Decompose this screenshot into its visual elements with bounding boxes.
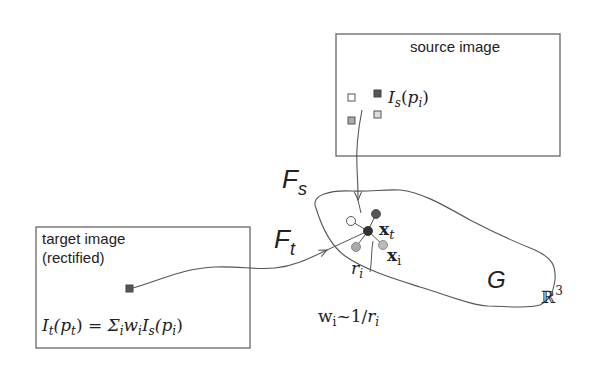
source-image-box: source image Is(pi) <box>336 34 560 156</box>
neighbor-node-light <box>347 217 356 226</box>
distance-indicator <box>370 241 373 272</box>
source-mapping-label: Fs <box>282 164 307 199</box>
xt-label: xt <box>379 219 395 242</box>
target-mapping-tail <box>327 231 368 250</box>
diagram-svg: source image Is(pi) target image (rectif… <box>0 0 595 368</box>
neighbor-node-dark <box>372 210 381 219</box>
diagram-canvas: source image Is(pi) target image (rectif… <box>0 0 595 368</box>
r3-label: ℝ3 <box>541 284 563 307</box>
ri-label: ri <box>351 258 363 281</box>
target-pixel-square <box>126 285 133 292</box>
source-pixel-square <box>348 117 355 124</box>
source-box-label: source image <box>410 38 500 55</box>
source-pixel-square-selected <box>374 90 381 97</box>
source-pixel-square <box>348 94 355 101</box>
surface-g-outline <box>315 190 555 307</box>
source-mapping-tail <box>358 200 361 213</box>
source-pixel-label: Is(pi) <box>387 87 429 110</box>
surface-g-label: G <box>487 266 506 293</box>
target-mapping-arrow <box>133 250 327 288</box>
xi-label: xi <box>387 245 401 268</box>
target-node-xt <box>364 227 373 236</box>
source-mapping-arrow <box>357 110 362 200</box>
neighbor-node-gray <box>352 243 361 252</box>
interpolation-equation: It(pt) = ΣiwiIs(pi) <box>41 315 183 338</box>
source-pixel-square <box>374 111 381 118</box>
target-box-label-line2: (rectified) <box>42 249 105 266</box>
target-image-box: target image (rectified) It(pt) = ΣiwiIs… <box>36 227 250 348</box>
target-mapping-label: Ft <box>274 224 296 259</box>
target-box-label-line1: target image <box>42 230 125 247</box>
weight-formula: wi~1/ri <box>318 306 379 329</box>
